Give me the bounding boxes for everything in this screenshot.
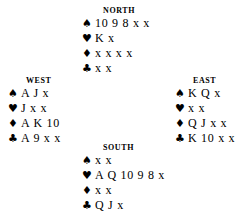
bridge-hand-diagram: NORTH ♠ 10 9 8 x x ♥ K x ♦ x x x x ♣ x x… bbox=[0, 0, 241, 216]
west-spade-row: ♠ A J x bbox=[8, 86, 61, 101]
west-diamond-cards: A K 10 bbox=[21, 116, 60, 131]
club-icon: ♣ bbox=[82, 198, 95, 213]
club-icon: ♣ bbox=[175, 131, 188, 146]
spade-icon: ♠ bbox=[82, 16, 95, 31]
south-heart-row: ♥ A Q 10 9 8 x bbox=[82, 168, 165, 183]
west-spade-cards: A J x bbox=[21, 86, 49, 101]
diamond-icon: ♦ bbox=[82, 183, 95, 198]
south-diamond-row: ♦ x x bbox=[82, 183, 165, 198]
spade-icon: ♠ bbox=[82, 153, 95, 168]
heart-icon: ♥ bbox=[8, 101, 21, 116]
diamond-icon: ♦ bbox=[82, 46, 95, 61]
north-diamond-row: ♦ x x x x bbox=[82, 46, 150, 61]
north-heart-cards: K x bbox=[95, 31, 115, 46]
west-heart-row: ♥ J x x bbox=[8, 101, 61, 116]
hand-label-south: SOUTH bbox=[103, 143, 165, 153]
heart-icon: ♥ bbox=[82, 31, 95, 46]
north-heart-row: ♥ K x bbox=[82, 31, 150, 46]
hand-east: EAST ♠ K Q x ♥ x x ♦ Q J x x ♣ K 10 x x bbox=[175, 76, 235, 146]
diamond-icon: ♦ bbox=[175, 116, 188, 131]
east-spade-cards: K Q x bbox=[188, 86, 221, 101]
east-spade-row: ♠ K Q x bbox=[175, 86, 235, 101]
east-heart-cards: x x bbox=[188, 101, 205, 116]
hand-west: WEST ♠ A J x ♥ J x x ♦ A K 10 ♣ A 9 x x bbox=[8, 76, 61, 146]
club-icon: ♣ bbox=[8, 131, 21, 146]
west-heart-cards: J x x bbox=[21, 101, 47, 116]
north-club-cards: x x bbox=[95, 61, 112, 76]
south-club-cards: Q J x bbox=[95, 198, 124, 213]
north-diamond-cards: x x x x bbox=[95, 46, 133, 61]
east-diamond-cards: Q J x x bbox=[188, 116, 227, 131]
heart-icon: ♥ bbox=[82, 168, 95, 183]
hand-label-north: NORTH bbox=[103, 6, 150, 16]
hand-north: NORTH ♠ 10 9 8 x x ♥ K x ♦ x x x x ♣ x x bbox=[82, 6, 150, 76]
north-club-row: ♣ x x bbox=[82, 61, 150, 76]
hand-south: SOUTH ♠ x x ♥ A Q 10 9 8 x ♦ x x ♣ Q J x bbox=[82, 143, 165, 213]
west-diamond-row: ♦ A K 10 bbox=[8, 116, 61, 131]
east-club-cards: K 10 x x bbox=[188, 131, 235, 146]
hand-label-east: EAST bbox=[193, 76, 235, 86]
south-club-row: ♣ Q J x bbox=[82, 198, 165, 213]
club-icon: ♣ bbox=[82, 61, 95, 76]
east-club-row: ♣ K 10 x x bbox=[175, 131, 235, 146]
diamond-icon: ♦ bbox=[8, 116, 21, 131]
south-spade-cards: x x bbox=[95, 153, 112, 168]
heart-icon: ♥ bbox=[175, 101, 188, 116]
hand-label-west: WEST bbox=[26, 76, 61, 86]
west-club-cards: A 9 x x bbox=[21, 131, 61, 146]
west-club-row: ♣ A 9 x x bbox=[8, 131, 61, 146]
south-heart-cards: A Q 10 9 8 x bbox=[95, 168, 165, 183]
south-spade-row: ♠ x x bbox=[82, 153, 165, 168]
east-diamond-row: ♦ Q J x x bbox=[175, 116, 235, 131]
north-spade-row: ♠ 10 9 8 x x bbox=[82, 16, 150, 31]
north-spade-cards: 10 9 8 x x bbox=[95, 16, 150, 31]
east-heart-row: ♥ x x bbox=[175, 101, 235, 116]
south-diamond-cards: x x bbox=[95, 183, 112, 198]
spade-icon: ♠ bbox=[8, 86, 21, 101]
spade-icon: ♠ bbox=[175, 86, 188, 101]
